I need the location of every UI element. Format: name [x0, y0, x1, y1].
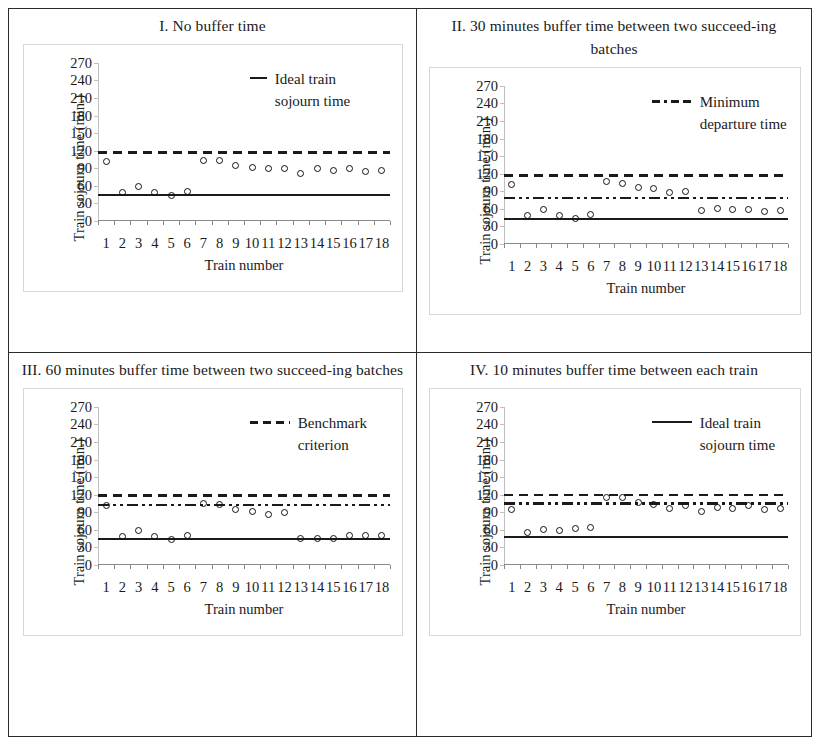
x-tick-mark	[646, 244, 647, 248]
y-tick-label: 270	[70, 54, 92, 71]
legend-label-line1: Ideal train	[700, 412, 775, 435]
y-tick-label: 180	[70, 451, 92, 468]
data-point	[249, 508, 256, 515]
y-tick-mark	[500, 226, 504, 227]
x-tick-mark	[98, 221, 99, 225]
data-point	[540, 206, 547, 213]
data-point	[200, 157, 207, 164]
y-tick-label: 150	[70, 125, 92, 142]
data-point	[745, 206, 752, 213]
x-tick-mark	[678, 565, 679, 569]
data-point	[314, 535, 321, 542]
x-tick-mark	[772, 244, 773, 248]
data-point	[297, 170, 304, 177]
panel-3-legend: Benchmark criterion	[250, 412, 367, 457]
x-tick-label: 14	[310, 235, 325, 252]
data-point	[168, 192, 175, 199]
x-tick-mark	[147, 221, 148, 225]
x-tick-label: 7	[200, 235, 207, 252]
reference-line	[504, 536, 788, 538]
x-tick-mark	[293, 221, 294, 225]
y-tick-label: 0	[491, 235, 498, 252]
y-tick-mark	[500, 103, 504, 104]
data-point	[714, 205, 721, 212]
data-point	[346, 532, 353, 539]
x-tick-label: 17	[358, 579, 373, 596]
y-tick-label: 270	[70, 398, 92, 415]
y-tick-label: 150	[476, 469, 498, 486]
data-point	[524, 212, 531, 219]
x-tick-label: 16	[342, 235, 357, 252]
y-tick-label: 90	[484, 183, 499, 200]
x-tick-label: 8	[619, 579, 626, 596]
x-tick-label: 5	[167, 235, 174, 252]
reference-line	[504, 494, 788, 496]
x-tick-label: 7	[603, 579, 610, 596]
x-tick-label: 10	[245, 579, 260, 596]
x-tick-label: 13	[294, 235, 309, 252]
panel-3: III. 60 minutes buffer time between two …	[9, 353, 417, 736]
data-point	[761, 208, 768, 215]
y-tick-label: 120	[70, 486, 92, 503]
x-tick-label: 12	[678, 579, 693, 596]
data-point	[714, 504, 721, 511]
x-tick-label: 12	[277, 235, 292, 252]
x-tick-mark	[741, 565, 742, 569]
y-tick-label: 240	[476, 416, 498, 433]
x-tick-label: 13	[694, 579, 709, 596]
x-tick-mark	[599, 565, 600, 569]
panel-1-title: I. No buffer time	[9, 9, 416, 38]
x-tick-label: 15	[726, 579, 741, 596]
x-tick-mark	[147, 565, 148, 569]
x-tick-mark	[341, 221, 342, 225]
data-point	[666, 189, 673, 196]
panel-1-legend: Ideal train sojourn time	[250, 68, 350, 113]
panel-3-title: III. 60 minutes buffer time between two …	[9, 353, 416, 382]
data-point	[682, 188, 689, 195]
x-tick-label: 5	[571, 258, 578, 275]
data-point	[265, 511, 272, 518]
y-tick-mark	[94, 407, 98, 408]
x-tick-mark	[693, 565, 694, 569]
x-tick-mark	[551, 244, 552, 248]
x-tick-mark	[662, 244, 663, 248]
data-point	[698, 508, 705, 515]
data-point	[378, 167, 385, 174]
x-tick-label: 2	[119, 579, 126, 596]
data-point	[216, 157, 223, 164]
x-tick-mark	[130, 221, 131, 225]
y-tick-mark	[94, 116, 98, 117]
x-tick-mark	[260, 221, 261, 225]
x-tick-label: 2	[119, 235, 126, 252]
x-tick-mark	[163, 221, 164, 225]
y-tick-mark	[500, 86, 504, 87]
data-point	[362, 532, 369, 539]
panel-2-legend: Minimum departure time	[652, 91, 787, 136]
x-tick-mark	[309, 221, 310, 225]
x-tick-label: 8	[216, 235, 223, 252]
panel-3-chart: Train sojourn time (min.) 03060901201501…	[23, 388, 403, 636]
y-tick-label: 180	[70, 107, 92, 124]
y-tick-mark	[500, 139, 504, 140]
y-tick-mark	[500, 209, 504, 210]
data-point	[540, 526, 547, 533]
x-tick-mark	[646, 565, 647, 569]
data-point	[682, 502, 689, 509]
x-tick-mark	[693, 244, 694, 248]
x-tick-mark	[630, 244, 631, 248]
x-tick-mark	[244, 565, 245, 569]
data-point	[666, 505, 673, 512]
x-tick-mark	[195, 221, 196, 225]
x-tick-mark	[114, 221, 115, 225]
x-tick-label: 3	[135, 579, 142, 596]
y-tick-mark	[94, 168, 98, 169]
x-tick-label: 2	[524, 579, 531, 596]
panel-4: IV. 10 minutes buffer time between each …	[417, 353, 811, 736]
x-tick-label: 13	[294, 579, 309, 596]
y-tick-mark	[94, 98, 98, 99]
y-tick-mark	[94, 442, 98, 443]
x-tick-mark	[772, 565, 773, 569]
y-tick-label: 90	[78, 160, 93, 177]
y-tick-mark	[94, 133, 98, 134]
x-tick-label: 8	[619, 258, 626, 275]
